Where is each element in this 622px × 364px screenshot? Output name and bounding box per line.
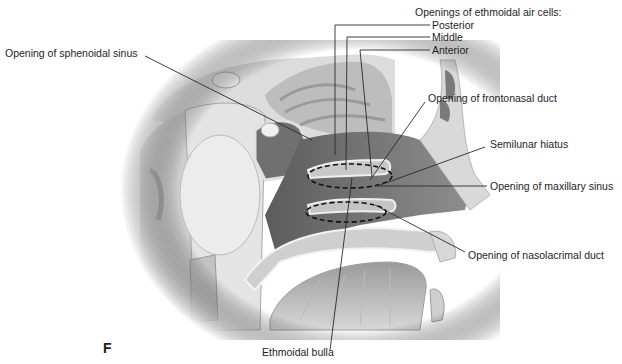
- panel-letter: F: [103, 340, 112, 356]
- vignette: [120, 40, 500, 340]
- label-middle: Middle: [432, 31, 463, 43]
- label-maxillary: Opening of maxillary sinus: [490, 180, 613, 192]
- label-posterior: Posterior: [432, 19, 474, 31]
- label-frontonasal: Opening of frontonasal duct: [428, 92, 557, 104]
- label-semilunar: Semilunar hiatus: [490, 138, 568, 150]
- label-ethmoid-heading: Openings of ethmoidal air cells:: [415, 6, 562, 18]
- label-anterior: Anterior: [432, 44, 469, 56]
- label-sphenoidal: Opening of sphenoidal sinus: [5, 47, 138, 59]
- label-nasolacrimal: Opening of nasolacrimal duct: [468, 249, 604, 261]
- label-ethmoidal-bulla: Ethmoidal bulla: [262, 346, 334, 358]
